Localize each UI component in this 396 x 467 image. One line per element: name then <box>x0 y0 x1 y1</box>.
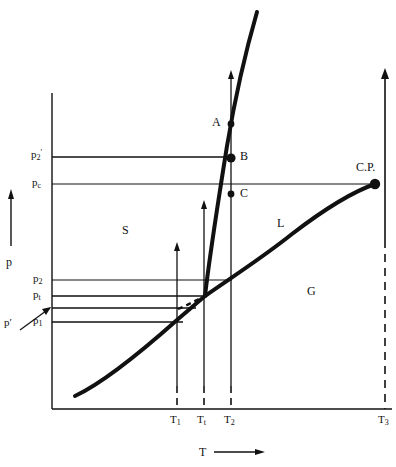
pressure-axis-arrowhead <box>8 189 14 199</box>
pressure-tick-p2prime: p2′ <box>31 149 42 162</box>
critical-point-label: C.P. <box>356 161 375 173</box>
sublimation-vaporisation-curve <box>75 184 375 396</box>
critical-point-marker <box>370 179 380 189</box>
phase-diagram-figure: p2′ pc p2 pt p′ p1 T1 Tt T2 T3 S L G A B… <box>0 0 396 467</box>
region-label-solid: S <box>122 224 129 236</box>
region-label-liquid: L <box>277 217 284 229</box>
x-axis-label: T <box>199 446 206 458</box>
temperature-arrowhead-T2 <box>228 70 234 79</box>
point-label-a: A <box>212 116 221 128</box>
temperature-arrowhead-Tt <box>201 200 207 209</box>
point-b-marker <box>226 153 235 162</box>
temperature-tick-T1: T1 <box>170 414 181 427</box>
temperature-axis-arrowhead <box>255 449 265 455</box>
temperature-arrowhead-T1 <box>174 242 180 251</box>
point-label-c: C <box>240 187 248 199</box>
temperature-tick-T2: T2 <box>224 414 235 427</box>
temperature-tick-Tt: Tt <box>197 414 206 427</box>
pprime-pointer-arrowhead <box>42 307 51 315</box>
temperature-tick-T3: T3 <box>378 414 389 427</box>
pressure-tick-p2: p2 <box>33 273 43 286</box>
pressure-tick-pc: pc <box>32 177 41 190</box>
point-label-b: B <box>240 150 248 162</box>
pressure-tick-pt: pt <box>33 289 41 302</box>
pressure-tick-p1: p1 <box>33 315 43 328</box>
temperature-arrowhead-T3 <box>381 68 389 79</box>
y-axis-label: p <box>6 256 12 268</box>
pressure-tick-pprime: p′ <box>4 317 12 328</box>
phase-diagram-canvas <box>0 0 396 467</box>
region-label-gas: G <box>307 285 316 297</box>
point-c-marker <box>228 191 235 198</box>
point-a-marker <box>228 121 235 128</box>
